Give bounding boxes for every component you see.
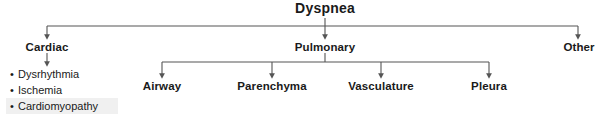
list-item-label: Ischemia	[18, 84, 62, 96]
node-vasculature: Vasculature	[348, 80, 414, 93]
node-pulmonary: Pulmonary	[295, 41, 355, 54]
list-item-label: Cardiomyopathy	[18, 100, 98, 112]
bullet-icon: •	[10, 100, 18, 112]
node-other: Other	[563, 41, 594, 54]
node-pleura: Pleura	[471, 80, 507, 93]
node-cardiac: Cardiac	[26, 41, 69, 54]
list-item: •Ischemia	[6, 82, 118, 98]
cardiac-causes-list: •Dysrhythmia •Ischemia •Cardiomyopathy	[6, 66, 118, 114]
dyspnea-flowchart: Dyspnea Cardiac Pulmonary Other •Dysrhyt…	[0, 0, 615, 120]
bullet-icon: •	[10, 84, 18, 96]
bullet-icon: •	[10, 68, 18, 80]
list-item-highlighted: •Cardiomyopathy	[6, 98, 118, 114]
list-item-label: Dysrhythmia	[18, 68, 79, 80]
node-parenchyma: Parenchyma	[237, 80, 306, 93]
root-node-dyspnea: Dyspnea	[295, 2, 355, 15]
node-airway: Airway	[143, 80, 181, 93]
list-item: •Dysrhythmia	[6, 66, 118, 82]
